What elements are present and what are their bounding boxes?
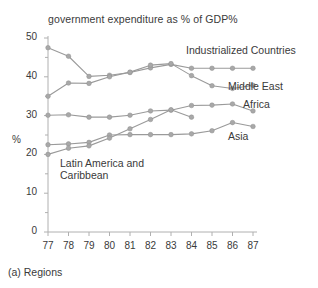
- data-point: [87, 144, 92, 149]
- data-point: [169, 61, 174, 66]
- data-point: [46, 94, 51, 99]
- series-label: Asia: [228, 130, 248, 142]
- data-point: [87, 81, 92, 86]
- x-tick-label: 79: [79, 240, 99, 251]
- y-tick-label: 50: [17, 31, 37, 42]
- data-point: [230, 120, 235, 125]
- y-tick-label: 20: [17, 147, 37, 158]
- data-point: [251, 124, 256, 129]
- x-tick-label: 77: [38, 240, 58, 251]
- data-point: [189, 66, 194, 71]
- data-point: [87, 115, 92, 120]
- data-point: [87, 74, 92, 79]
- data-point: [169, 132, 174, 137]
- x-tick-label: 80: [100, 240, 120, 251]
- data-point: [189, 132, 194, 137]
- chart-container: government expenditure as % of GDP% % 01…: [0, 0, 318, 288]
- data-point: [230, 66, 235, 71]
- data-point: [128, 113, 133, 118]
- series-label: Africa: [243, 98, 270, 110]
- data-point: [148, 63, 153, 68]
- x-tick-label: 85: [202, 240, 222, 251]
- data-point: [148, 109, 153, 114]
- x-tick-label: 84: [182, 240, 202, 251]
- data-point: [189, 115, 194, 120]
- data-point: [210, 83, 215, 88]
- data-point: [148, 117, 153, 122]
- x-tick-label: 78: [59, 240, 79, 251]
- x-tick-label: 81: [120, 240, 140, 251]
- series-label: Middle East: [228, 80, 283, 92]
- data-point: [107, 75, 112, 80]
- figure-caption: (a) Regions: [8, 266, 62, 278]
- data-point: [46, 45, 51, 50]
- data-point: [66, 142, 71, 147]
- data-point: [66, 81, 71, 86]
- data-point: [189, 103, 194, 108]
- y-tick-label: 40: [17, 70, 37, 81]
- data-point: [66, 113, 71, 118]
- data-point: [148, 132, 153, 137]
- data-point: [107, 115, 112, 120]
- data-point: [46, 113, 51, 118]
- data-point: [210, 103, 215, 108]
- series-label: Industrialized Countries: [186, 44, 296, 56]
- data-point: [169, 107, 174, 112]
- data-point: [128, 126, 133, 131]
- data-point: [66, 146, 71, 151]
- data-point: [66, 54, 71, 59]
- data-point: [46, 142, 51, 147]
- data-point: [251, 66, 256, 71]
- data-point: [210, 128, 215, 133]
- data-point: [107, 136, 112, 141]
- series-label: Latin America and Caribbean: [60, 158, 150, 181]
- x-tick-label: 82: [141, 240, 161, 251]
- x-tick-label: 87: [243, 240, 263, 251]
- y-tick-label: 0: [17, 225, 37, 236]
- data-point: [189, 73, 194, 78]
- data-point: [128, 70, 133, 75]
- data-point: [128, 132, 133, 137]
- data-point: [210, 66, 215, 71]
- x-tick-label: 86: [223, 240, 243, 251]
- y-tick-label: 10: [17, 186, 37, 197]
- x-tick-label: 83: [161, 240, 181, 251]
- data-point: [230, 102, 235, 107]
- y-tick-label: 30: [17, 109, 37, 120]
- data-point: [46, 152, 51, 157]
